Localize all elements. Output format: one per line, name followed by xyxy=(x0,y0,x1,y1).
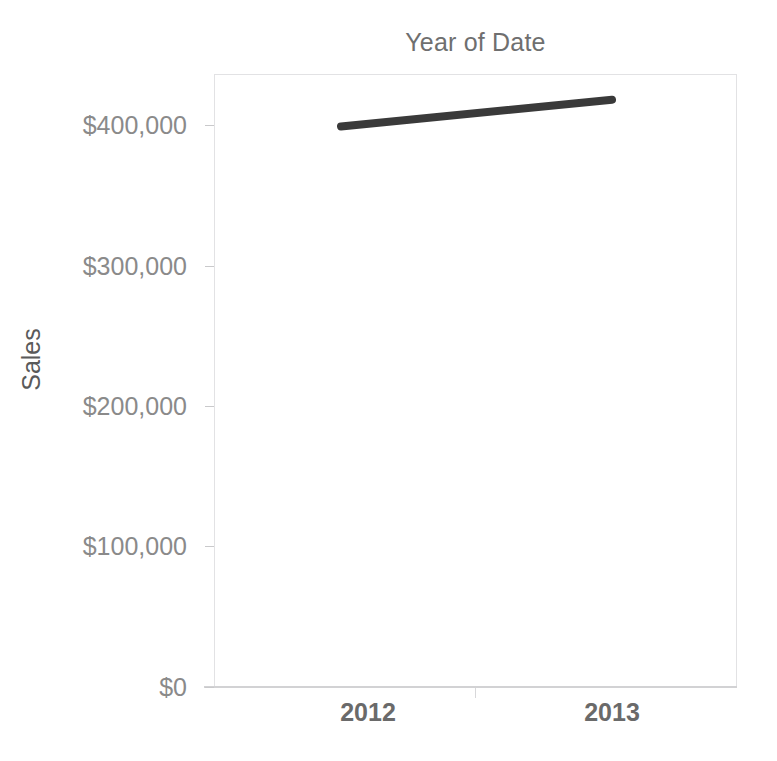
y-axis-title: Sales xyxy=(17,310,46,410)
y-tick-mark-1 xyxy=(205,546,214,547)
plot-area xyxy=(214,74,737,687)
y-tick-label-3: $300,000 xyxy=(83,252,187,281)
x-tick-label-2013: 2013 xyxy=(584,698,640,727)
x-axis-line xyxy=(204,686,737,688)
y-tick-label-0: $0 xyxy=(159,673,187,702)
chart-title: Year of Date xyxy=(214,28,737,57)
y-tick-mark-3 xyxy=(205,266,214,267)
y-tick-mark-4 xyxy=(205,125,214,126)
y-tick-label-2: $200,000 xyxy=(83,392,187,421)
y-tick-mark-2 xyxy=(205,406,214,407)
x-tick-label-2012: 2012 xyxy=(340,698,396,727)
y-tick-label-1: $100,000 xyxy=(83,532,187,561)
y-tick-label-4: $400,000 xyxy=(83,111,187,140)
x-axis-divider-tick xyxy=(475,688,476,698)
line-chart: Year of Date Sales $0 $100,000 $200,000 … xyxy=(0,0,777,761)
y-tick-mark-0 xyxy=(205,687,214,688)
